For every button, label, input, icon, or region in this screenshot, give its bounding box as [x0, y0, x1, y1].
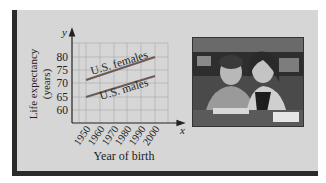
- y-tick-80: 80: [57, 51, 69, 63]
- y-axis-label-line1: Life expectancy: [27, 48, 39, 119]
- annotation-us-males: U.S. males: [98, 76, 150, 102]
- y-tick-70: 70: [57, 77, 69, 89]
- couple-photo: [192, 37, 304, 127]
- y-tick-75: 75: [57, 64, 69, 76]
- y-tick-60: 60: [57, 104, 69, 116]
- x-axis-label: Year of birth: [94, 149, 155, 163]
- x-axis-letter: x: [179, 124, 185, 136]
- x-tick-labels: 1950 1960 1970 1980 1990 2000: [72, 124, 162, 148]
- y-axis-letter: y: [61, 26, 67, 38]
- x-tick-2000: 2000: [141, 124, 162, 148]
- photo-image: [193, 38, 303, 126]
- y-tick-65: 65: [57, 91, 69, 103]
- y-axis-label-line2: (years): [40, 68, 53, 99]
- y-tick-labels: 80 75 70 65 60: [57, 51, 69, 116]
